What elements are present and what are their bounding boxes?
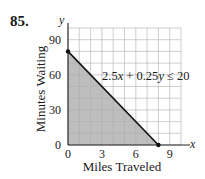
y-axis-label: Minutes Waiting (33, 45, 48, 132)
inequality-graph: 0369 0306090 x y Miles Traveled Minutes … (0, 0, 205, 179)
y-axis-variable: y (58, 13, 65, 27)
x-axis-variable: x (189, 137, 196, 151)
endpoint-marker (156, 143, 160, 147)
y-tick-label: 30 (49, 103, 61, 117)
y-tick-label: 60 (49, 68, 61, 82)
y-tick-label: 90 (49, 33, 61, 47)
y-tick-labels: 0306090 (49, 33, 61, 152)
x-axis-label: Miles Traveled (83, 159, 162, 174)
y-tick-label: 0 (55, 138, 61, 152)
endpoint-marker (66, 49, 70, 53)
inequality-annotation: 2.5x + 0.25y ≤ 20 (102, 69, 190, 83)
x-tick-label: 0 (65, 147, 71, 161)
x-tick-label: 9 (167, 147, 173, 161)
